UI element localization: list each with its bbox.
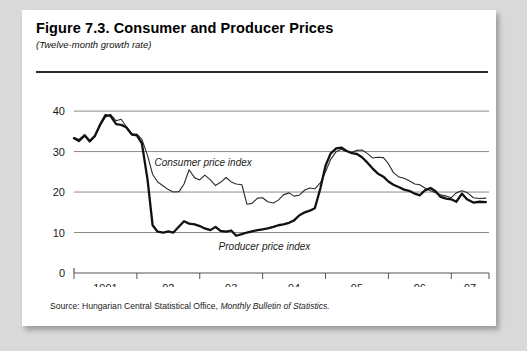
title-block: Figure 7.3. Consumer and Producer Prices…	[36, 20, 486, 50]
series-annotations: Consumer price indexProducer price index	[154, 157, 311, 252]
x-axis-tick-labels: 1991929394959697	[93, 282, 476, 287]
figure-subtitle: (Twelve-month growth rate)	[36, 39, 486, 50]
gridlines	[74, 111, 489, 232]
x-tick-label: 97	[464, 282, 476, 287]
source-note: Source: Hungarian Central Statistical Of…	[50, 301, 330, 311]
source-prefix: Source: Hungarian Central Statistical Of…	[50, 301, 218, 311]
series-label: Consumer price index	[154, 157, 252, 168]
figure-card: Figure 7.3. Consumer and Producer Prices…	[22, 10, 496, 326]
x-tick-label: 94	[288, 282, 300, 287]
x-tick-label: 1991	[93, 282, 117, 287]
x-tick-label: 92	[162, 282, 174, 287]
y-tick-label: 0	[59, 267, 65, 279]
y-tick-label: 10	[53, 227, 65, 239]
page-title: Figure 7.3. Consumer and Producer Prices	[36, 20, 486, 36]
line-chart-svg: 010203040 1991929394959697 Consumer pric…	[22, 82, 496, 287]
x-tick-label: 93	[225, 282, 237, 287]
x-tick-label: 96	[414, 282, 426, 287]
x-axis-line	[74, 268, 489, 279]
x-tick-label: 95	[351, 282, 363, 287]
y-axis-tick-labels: 010203040	[53, 105, 65, 279]
y-tick-label: 30	[53, 146, 65, 158]
y-tick-label: 40	[53, 105, 65, 117]
y-tick-label: 20	[53, 186, 65, 198]
chart-plot-area: 010203040 1991929394959697 Consumer pric…	[22, 82, 496, 287]
series-label: Producer price index	[219, 241, 312, 252]
series-line	[74, 115, 486, 236]
series-lines	[74, 114, 486, 235]
title-divider	[36, 71, 488, 73]
source-publication: Monthly Bulletin of Statistics.	[220, 301, 329, 311]
